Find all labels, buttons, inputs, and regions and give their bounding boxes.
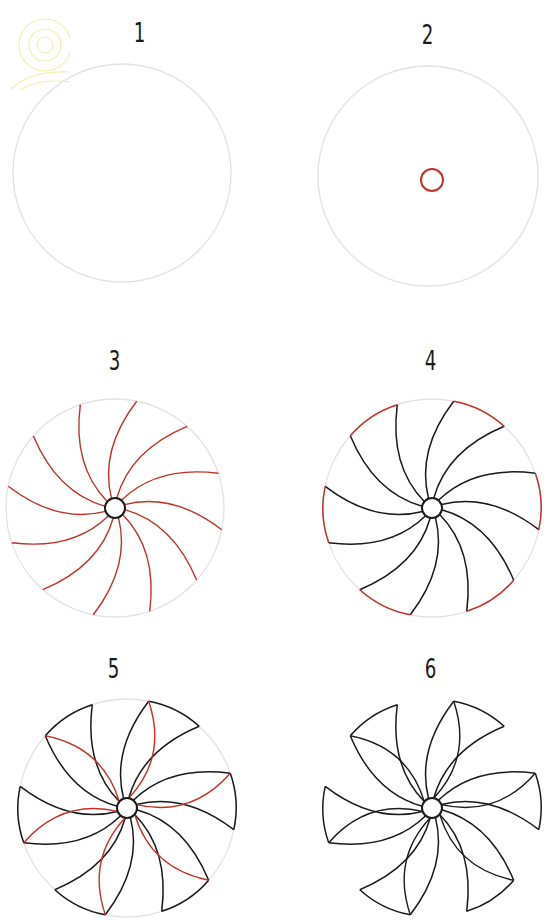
petal-edge bbox=[434, 426, 505, 498]
petal-fold bbox=[135, 814, 209, 880]
step-4: 4 bbox=[279, 330, 558, 620]
petal-rim bbox=[350, 405, 397, 436]
center-circle bbox=[422, 798, 442, 818]
petal-rim bbox=[535, 473, 541, 529]
petal-edge bbox=[434, 726, 505, 798]
curved-spoke bbox=[12, 516, 109, 544]
petal-rim bbox=[230, 773, 236, 829]
petal-rim bbox=[467, 580, 514, 611]
petal-fold bbox=[129, 701, 155, 798]
step-4-drawing bbox=[279, 330, 558, 620]
petal-rim bbox=[18, 786, 24, 842]
petal-edge bbox=[440, 814, 468, 911]
center-circle bbox=[117, 798, 137, 818]
petal-rim bbox=[350, 705, 397, 736]
step-3-drawing bbox=[0, 330, 279, 620]
step-6-drawing bbox=[279, 640, 558, 920]
petal-edge bbox=[133, 772, 230, 800]
guide-circle bbox=[13, 64, 231, 282]
petal-rim bbox=[454, 401, 505, 426]
curved-spoke bbox=[79, 405, 107, 502]
curved-spoke bbox=[43, 518, 114, 590]
curved-spoke bbox=[123, 514, 151, 611]
petal-fold bbox=[434, 701, 460, 798]
petal-rim bbox=[149, 701, 200, 726]
center-circle bbox=[422, 498, 442, 518]
petal-fold bbox=[350, 736, 424, 802]
petal-rim bbox=[535, 773, 541, 829]
center-circle bbox=[105, 498, 125, 518]
petal-edge bbox=[350, 436, 422, 507]
petal-edge bbox=[129, 726, 200, 798]
step-6: 6 bbox=[279, 640, 558, 920]
petal-rim bbox=[45, 705, 92, 736]
petal-edge bbox=[442, 510, 514, 581]
petal-edge bbox=[24, 816, 121, 844]
curved-spoke bbox=[125, 510, 197, 581]
petal-edge bbox=[55, 818, 126, 890]
petal-rim bbox=[162, 880, 209, 911]
step-2-drawing bbox=[279, 0, 558, 300]
petal-rim bbox=[323, 786, 329, 842]
petal-edge bbox=[438, 472, 535, 500]
step-5-drawing bbox=[0, 640, 279, 920]
petal-fold bbox=[45, 736, 119, 802]
petal-edge bbox=[360, 518, 431, 590]
petal-fold bbox=[404, 818, 430, 915]
petal-fold bbox=[440, 814, 514, 880]
petal-rim bbox=[360, 890, 411, 915]
petal-edge bbox=[329, 516, 426, 544]
guide-circle bbox=[318, 66, 538, 286]
petal-rim bbox=[454, 701, 505, 726]
step-3: 3 bbox=[0, 330, 279, 620]
petal-rim bbox=[323, 486, 329, 542]
petal-rim bbox=[360, 590, 411, 615]
petal-rim bbox=[467, 880, 514, 911]
petal-edge bbox=[396, 705, 424, 802]
petal-edge bbox=[350, 736, 422, 807]
step-5: 5 bbox=[0, 640, 279, 920]
petal-edge bbox=[396, 405, 424, 502]
petal-edge bbox=[442, 810, 514, 881]
curved-spoke bbox=[121, 472, 218, 500]
petal-edge bbox=[329, 816, 426, 844]
petal-edge bbox=[440, 514, 468, 611]
petal-rim bbox=[55, 890, 106, 915]
curved-spoke bbox=[117, 426, 188, 498]
background-swirl-decoration bbox=[0, 0, 70, 90]
curved-spoke bbox=[33, 436, 105, 507]
petal-edge bbox=[360, 818, 431, 890]
petal-edge bbox=[91, 705, 119, 802]
step-2: 2 bbox=[279, 0, 558, 300]
petal-edge bbox=[45, 736, 117, 807]
center-circle bbox=[421, 169, 443, 191]
petal-edge bbox=[137, 810, 209, 881]
petal-edge bbox=[438, 772, 535, 800]
petal-edge bbox=[135, 814, 163, 911]
petal-fold bbox=[99, 818, 125, 915]
